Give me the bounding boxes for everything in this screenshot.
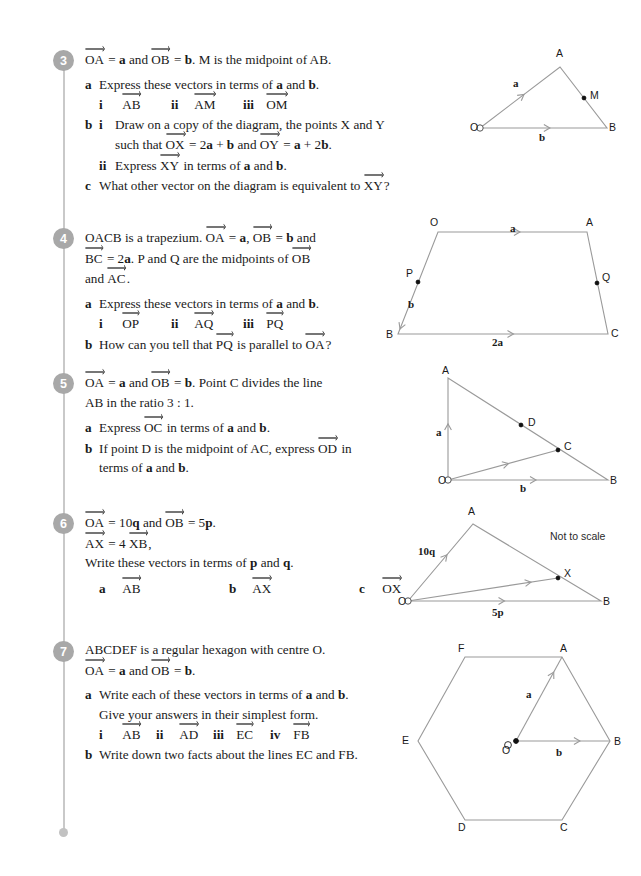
item-marker: ii — [171, 95, 191, 115]
vector-label: OP — [122, 316, 139, 331]
bold-term: b — [178, 460, 185, 475]
point-marker — [582, 96, 586, 100]
diagram-outline — [448, 378, 608, 480]
question-7-part-line: bWrite down two facts about the lines EC… — [85, 745, 358, 765]
question-5-part-line: aExpress OC in terms of a and b. — [85, 417, 352, 438]
vector-label: AC — [107, 271, 125, 286]
figure-label-q: Q — [602, 271, 610, 283]
vector-item-ab: a AB — [99, 578, 229, 599]
vector-item-fb: iv FB — [270, 724, 327, 745]
vector-item-om: iii OM — [243, 94, 315, 115]
vector-arrow-icon — [85, 45, 105, 51]
bold-term: b — [185, 375, 192, 390]
question-3-part-line: biDraw on a copy of the diagram, the poi… — [85, 115, 390, 135]
vector-label: OA — [206, 230, 225, 245]
item-marker: iv — [270, 725, 290, 745]
figure-question-7: FABCDEOab — [418, 630, 633, 835]
vector-aq: AQ — [194, 313, 213, 334]
vector-label: AB — [122, 727, 140, 742]
question-3-text: OA = a and OB = b. M is the midpoint of … — [85, 49, 390, 196]
vector-ob: OB — [151, 660, 169, 681]
vector-arrow-icon — [122, 720, 141, 726]
figure-label-10q: 10q — [418, 545, 435, 557]
vector-arrow-icon — [179, 720, 199, 726]
vector-arrow-icon — [129, 529, 148, 535]
bold-term: b — [338, 687, 345, 702]
vector-ob: OB — [292, 248, 310, 269]
bold-term: b — [227, 137, 234, 152]
vector-oa: OA — [206, 227, 225, 248]
figure-label-o: O — [470, 121, 478, 133]
vector-ax: AX — [85, 533, 104, 554]
bold-term: a — [227, 420, 234, 435]
vector-bc: BC — [85, 248, 103, 269]
bold-term: p — [205, 515, 212, 530]
item-marker: ii — [156, 725, 176, 745]
figure-question-3: OABMab — [470, 45, 630, 145]
figure-label-a: A — [468, 505, 475, 517]
vector-arrow-icon — [85, 529, 105, 535]
diagram-outline — [418, 657, 610, 820]
not-to-scale-note: Not to scale — [550, 530, 605, 542]
vector-label: FB — [293, 727, 309, 742]
point-marker — [595, 281, 599, 285]
vector-pq: PQ — [266, 313, 283, 334]
figure-label-b: b — [539, 131, 545, 143]
figure-label-c: C — [564, 440, 572, 452]
diagram-canvas — [390, 220, 630, 350]
vector-item-ab: i AB — [99, 94, 171, 115]
part-marker: b — [85, 335, 99, 355]
bold-term: q — [283, 555, 290, 570]
vector-arrow-icon — [85, 656, 105, 662]
vector-arrow-icon — [266, 309, 284, 315]
vector-label: OD — [318, 441, 337, 456]
vector-label: XY — [160, 158, 179, 173]
vector-arrow-icon — [364, 171, 384, 177]
bold-term: a — [119, 663, 126, 678]
question-7-stem-line: ABCDEF is a regular hexagon with centre … — [85, 640, 358, 660]
vector-arrow-icon — [216, 330, 234, 336]
vector-item-ad: ii AD — [156, 724, 213, 745]
vector-arrow-icon — [194, 90, 216, 96]
vector-arrow-icon — [85, 368, 105, 374]
point-marker — [556, 448, 560, 452]
sub-part-marker: i — [99, 115, 115, 135]
vector-pq: PQ — [216, 334, 233, 355]
figure-label-a: a — [526, 688, 532, 700]
question-3-part-line: iiExpress XY in terms of a and b. — [85, 155, 390, 176]
figure-label-m: M — [590, 89, 599, 101]
bold-term: a — [240, 230, 247, 245]
bold-term: a — [146, 460, 153, 475]
diagram-canvas — [398, 505, 623, 620]
diagram-outline — [408, 578, 558, 601]
vector-label: OM — [266, 97, 287, 112]
question-7-part-line: aWrite each of these vectors in terms of… — [85, 685, 358, 705]
vector-ab: AB — [122, 94, 140, 115]
figure-label-b: B — [609, 121, 616, 133]
part-marker: a — [85, 75, 99, 95]
question-3-part-line: cWhat other vector on the diagram is equ… — [85, 175, 390, 196]
question-number-4: 4 — [53, 228, 74, 249]
figure-label-d: D — [458, 821, 466, 833]
diagram-outline — [516, 657, 562, 741]
vector-label: XB — [129, 536, 147, 551]
vector-ob: OB — [151, 49, 169, 70]
question-3-stem-line: OA = a and OB = b. M is the midpoint of … — [85, 49, 390, 70]
question-number-7: 7 — [53, 641, 74, 662]
item-marker: b — [229, 579, 249, 599]
figure-label-c: C — [611, 327, 619, 339]
vector-arrow-icon — [292, 244, 311, 250]
vector-list-row: i ABii AMiii OM — [85, 94, 390, 115]
item-marker: i — [99, 95, 119, 115]
question-5-part-line: bIf point D is the midpoint of AC, expre… — [85, 438, 352, 459]
figure-label-b: b — [408, 298, 414, 310]
vector-xy: XY — [364, 175, 383, 196]
bold-term: a — [244, 158, 251, 173]
vector-ad: AD — [179, 724, 198, 745]
question-5-stem-line: OA = a and OB = b. Point C divides the l… — [85, 372, 352, 393]
item-marker: a — [99, 579, 119, 599]
vector-arrow-icon — [160, 151, 180, 157]
vector-fb: FB — [293, 724, 309, 745]
vector-label: AQ — [194, 316, 213, 331]
vector-arrow-icon — [293, 720, 310, 726]
